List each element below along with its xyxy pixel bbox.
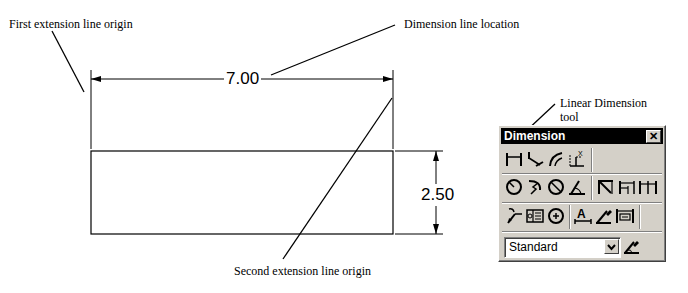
toolbar-title: Dimension — [504, 129, 565, 143]
chevron-down-icon — [605, 241, 618, 254]
leader-second-extension — [283, 98, 392, 259]
toolbar-row-1: X — [502, 148, 660, 172]
arc-length-button[interactable] — [546, 149, 566, 169]
arrowhead — [433, 224, 439, 234]
toolbar-separator — [591, 176, 593, 200]
row-separator — [502, 202, 662, 204]
diameter-dimension-icon — [546, 177, 566, 197]
dimension-edit-icon: A — [573, 206, 593, 226]
linear-dimension-icon — [504, 149, 524, 169]
jogged-dimension-button[interactable] — [525, 177, 545, 197]
diameter-dimension-button[interactable] — [546, 177, 566, 197]
ordinate-dimension-icon: X — [567, 149, 587, 169]
radius-dimension-icon — [504, 177, 524, 197]
angular-dimension-button[interactable] — [567, 177, 587, 197]
dimension-style-select[interactable]: Standard — [504, 237, 621, 258]
toolbar-title-bar[interactable]: Dimension ✕ — [501, 128, 663, 144]
toolbar-separator — [569, 205, 571, 229]
dimension-text-edit-button[interactable] — [594, 206, 614, 226]
continue-dimension-button[interactable] — [638, 177, 658, 197]
aligned-dimension-button[interactable] — [525, 149, 545, 169]
arrowhead — [433, 151, 439, 161]
aligned-dimension-icon — [525, 149, 545, 169]
svg-text:A: A — [577, 207, 586, 221]
quick-leader-button[interactable] — [504, 206, 524, 226]
radius-dimension-button[interactable] — [504, 177, 524, 197]
baseline-dimension-button[interactable] — [617, 177, 637, 197]
dimension-text-vertical: 2.50 — [421, 184, 454, 206]
dimension-style-value: Standard — [509, 240, 558, 254]
dimension-update-button[interactable] — [615, 206, 635, 226]
toolbar-separator — [639, 205, 641, 229]
tolerance-button[interactable] — [525, 206, 545, 226]
svg-text:X: X — [578, 150, 583, 157]
dimension-toolbar: Dimension ✕ — [498, 125, 666, 262]
leader-first-extension — [52, 31, 84, 92]
arrowhead — [383, 76, 393, 82]
arc-length-icon — [546, 149, 566, 169]
center-mark-button[interactable] — [546, 206, 566, 226]
jogged-dimension-icon — [525, 177, 545, 197]
toolbar-separator — [591, 148, 593, 172]
dimension-style-icon — [622, 236, 642, 256]
continue-dimension-icon — [638, 177, 658, 197]
dimension-style-button[interactable] — [622, 236, 642, 256]
angular-dimension-icon — [567, 177, 587, 197]
toolbar-row-2 — [502, 176, 660, 200]
linear-dimension-button[interactable] — [504, 149, 524, 169]
center-mark-icon — [546, 206, 566, 226]
quick-dimension-button[interactable] — [596, 177, 616, 197]
arrowhead — [91, 76, 101, 82]
row-separator — [502, 173, 662, 175]
toolbar-row-3: A — [502, 205, 660, 229]
close-button[interactable]: ✕ — [646, 130, 661, 143]
ordinate-dimension-button[interactable]: X — [567, 149, 587, 169]
dropdown-arrow-button[interactable] — [604, 239, 619, 254]
leader-dimension-line — [271, 25, 395, 75]
quick-leader-icon — [504, 206, 524, 226]
quick-dimension-icon — [596, 177, 616, 197]
dimension-update-icon — [615, 206, 635, 226]
tolerance-icon — [525, 206, 545, 226]
row-separator — [502, 231, 662, 233]
baseline-dimension-icon — [617, 177, 637, 197]
dimension-text-edit-icon — [594, 206, 614, 226]
dimension-text-horizontal: 7.00 — [224, 70, 261, 88]
dimension-edit-button[interactable]: A — [573, 206, 593, 226]
